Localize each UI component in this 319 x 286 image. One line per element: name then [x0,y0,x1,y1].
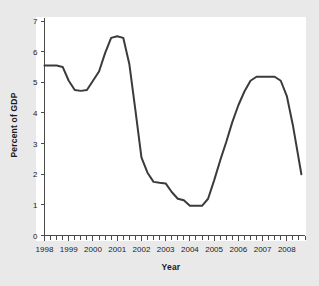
x-axis-ticks: 1998199920002001200220032004200520062007… [36,236,305,254]
y-tick-label: 5 [33,78,38,87]
x-tick-label: 2007 [254,245,272,254]
y-tick-label: 3 [33,140,38,149]
x-tick-label: 2001 [108,245,126,254]
x-tick-label: 1999 [60,245,78,254]
x-tick-label: 2008 [278,245,296,254]
x-tick-label: 2000 [84,245,102,254]
y-axis-title: Percent of GDP [9,85,19,165]
y-tick-label: 7 [33,17,38,26]
y-tick-label: 6 [33,48,38,57]
chart-canvas: 01234567 1998199920002001200220032004200… [0,0,319,286]
y-tick-label: 2 [33,170,38,179]
y-axis-ticks: 01234567 [33,17,44,241]
x-axis-title: Year [36,262,306,272]
y-tick-label: 0 [33,232,38,241]
x-tick-label: 2006 [229,245,247,254]
x-tick-label: 2005 [205,245,223,254]
x-tick-label: 2002 [133,245,151,254]
chart-figure: 01234567 1998199920002001200220032004200… [0,0,319,286]
data-series-line [45,36,302,205]
x-tick-label: 2004 [181,245,199,254]
x-tick-label: 2003 [157,245,175,254]
y-tick-label: 1 [33,201,38,210]
y-tick-label: 4 [33,109,38,118]
x-tick-label: 1998 [36,245,54,254]
